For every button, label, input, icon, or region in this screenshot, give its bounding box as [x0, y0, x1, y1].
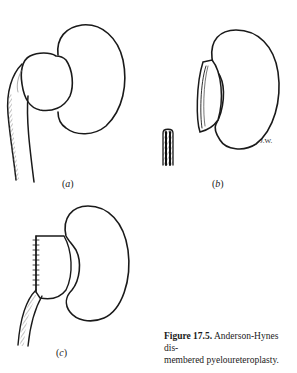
panel-a-label: (a) — [62, 178, 74, 190]
figure-caption: Figure 17.5. Anderson-Hynes dis- membere… — [164, 330, 294, 366]
panel-b-label: (b) — [212, 178, 224, 190]
kidney-c — [65, 206, 129, 321]
figure-illustration: (a) J.W. (b) (c) — [0, 0, 297, 373]
repaired-pelvis-c — [36, 236, 71, 299]
panel-a-drawing — [8, 25, 125, 182]
panel-c-drawing — [18, 206, 129, 346]
ureter-stub-b — [163, 129, 173, 165]
ureter-a-inner — [27, 96, 34, 182]
artist-initials: J.W. — [260, 137, 272, 145]
renal-pelvis-a — [21, 53, 72, 110]
panel-c-label: (c) — [56, 347, 67, 359]
figure-number: Figure 17.5. — [164, 331, 212, 341]
caption-line-2: membered pyeloureteroplasty. — [164, 355, 279, 365]
